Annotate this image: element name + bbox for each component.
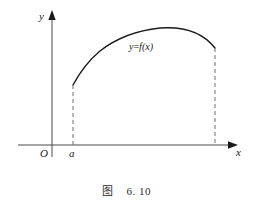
curve-equation-label: y=f(x) [129,42,153,52]
origin-label: O [40,148,48,159]
function-plot [0,0,253,205]
y-axis-label: y [39,11,44,22]
function-curve [73,28,215,85]
curve-label-arg: (x) [142,41,153,52]
x-axis-label: x [236,147,241,158]
figure-container: y x O a y=f(x) 图 6. 10 [0,0,253,205]
y-axis-arrow-icon [48,10,55,20]
lower-bound-label-a: a [69,148,75,159]
figure-caption: 图 6. 10 [0,182,253,198]
